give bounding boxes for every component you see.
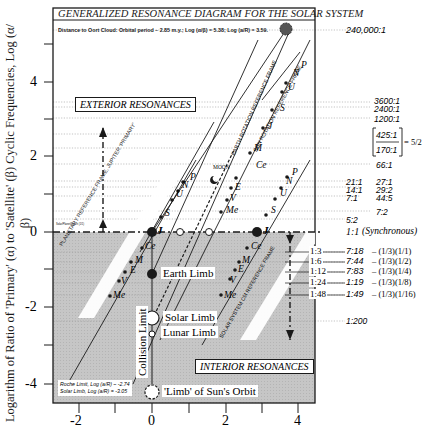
label-Ce-sun: Ce xyxy=(256,160,267,170)
label-S-sun: S xyxy=(280,103,285,113)
label-E-sun: E xyxy=(235,182,241,192)
interior-formula: – (1/3)(1/1) xyxy=(372,246,411,256)
label-E-left: E xyxy=(130,265,136,275)
ratio-425: 425:1 xyxy=(376,130,397,140)
label-N-left: N xyxy=(182,180,188,190)
interior-ratio: 1:3 xyxy=(309,246,323,256)
interior-ratio: 1:24 xyxy=(309,277,327,287)
label-P-cm: P xyxy=(292,167,298,177)
label-U-left: U xyxy=(176,189,183,199)
label-Me-cm: Me xyxy=(224,290,236,300)
label-Me-left: Me xyxy=(113,290,125,300)
label-P-sun: P xyxy=(301,60,307,70)
sun-orbit-limb-label: 'Limb' of Sun's Orbit xyxy=(162,385,258,397)
earth-limb-label: Earth Limb xyxy=(161,267,215,279)
label-Ce-left: Ce xyxy=(145,241,156,251)
label-N-sun: N xyxy=(293,68,299,78)
label-J-left: J xyxy=(157,224,163,236)
ratio-synch: 1:1 xyxy=(346,226,359,237)
limits-box: Roche Limit, Log (a/R) ~ -2.74 Solar Lim… xyxy=(58,380,132,396)
label-M-sun: M xyxy=(254,143,262,153)
moon-label: MOON xyxy=(213,164,230,170)
label-V-cm: V xyxy=(230,275,236,285)
collision-limit-label: Collision Limit xyxy=(136,306,148,378)
y-tick-0: 0 xyxy=(30,224,37,240)
earth-limb-marker xyxy=(147,269,157,279)
small-note: Solar/Planet/Synch (1/1) xyxy=(56,223,84,226)
x-tick-0: 0 xyxy=(148,413,155,429)
x-axis-ticks xyxy=(79,403,298,413)
solar-limit-text: Solar Limb, Log (a/R) = -3.05 xyxy=(60,388,130,395)
ratio-synch-note: (Synchronous) xyxy=(362,226,417,236)
y-axis-label: Logarithm of Ratio of 'Primary' (α) to '… xyxy=(3,23,33,423)
up-arrow-icon xyxy=(99,127,107,137)
interior-formula: – (1/3)(1/4) xyxy=(372,266,411,276)
label-Ce-cm: Ce xyxy=(251,241,262,251)
ratio-1-200: 1:200 xyxy=(346,316,367,326)
interior-formula: – (1/3)(1/2) xyxy=(372,256,411,266)
y-tick-2: 2 xyxy=(30,148,37,164)
page-title: GENERALIZED RESONANCE DIAGRAM FOR THE SO… xyxy=(58,8,363,19)
ratio-44-5: 44:5 xyxy=(376,193,393,203)
interior-value: 1:49 xyxy=(346,289,364,299)
ratio-1200: 1200:1 xyxy=(374,114,400,124)
interior-ratio: 1:12 xyxy=(309,266,327,276)
label-J-cm: J xyxy=(263,224,269,236)
exterior-resonances-box: EXTERIOR RESONANCES xyxy=(75,97,196,112)
label-E-cm: E xyxy=(238,264,244,274)
ratio-7-2: 7:2 xyxy=(376,207,388,217)
label-U-cm: U xyxy=(280,188,287,198)
y-axis-ticks xyxy=(44,44,53,384)
label-V-sun: V xyxy=(230,193,236,203)
x-tick-2: 2 xyxy=(222,413,229,429)
label-P-left: P xyxy=(190,172,196,182)
oort-cloud-marker xyxy=(280,23,292,35)
label-V-left: V xyxy=(121,276,127,286)
roche-limit-text: Roche Limit, Log (a/R) ~ -2.74 xyxy=(60,381,130,388)
y-tick-neg2: -2 xyxy=(25,299,37,315)
sun-orbit-limb-marker xyxy=(145,385,159,399)
y-tick-neg4: -4 xyxy=(25,376,37,392)
y-tick-4: 4 xyxy=(30,74,37,90)
interior-resonances-box: INTERIOR RESONANCES xyxy=(195,359,314,374)
ratio-7: 7:1 xyxy=(346,193,358,203)
ratio-240000: 240,000:1 xyxy=(346,25,386,35)
interior-ratio: 1:48 xyxy=(309,289,327,299)
label-S-left: S xyxy=(165,208,170,218)
ratio-5-2: 5:2 xyxy=(346,215,358,225)
lunar-limb-label: Lunar Limb xyxy=(161,326,218,338)
interior-value: 1:19 xyxy=(346,277,364,287)
interior-value: 7:44 xyxy=(346,256,364,266)
x-tick-4: 4 xyxy=(294,413,301,429)
interior-ratio: 1:6 xyxy=(309,256,323,266)
label-J-sun: J xyxy=(268,121,272,131)
interior-formula: – (1/3)(1/8) xyxy=(372,277,411,287)
solar-limb-label: Solar Limb xyxy=(163,311,217,323)
oort-note: Distance to Oort Cloud: Orbital period ~… xyxy=(58,27,268,33)
interior-value: 7:83 xyxy=(346,266,364,276)
ratio-170: 170:1 xyxy=(376,145,397,155)
ratio-66: 66:1 xyxy=(376,160,393,170)
moon-icon xyxy=(210,176,218,184)
label-N-cm: N xyxy=(286,176,292,186)
interior-value: 7:18 xyxy=(346,246,364,256)
label-M-left: M xyxy=(135,255,143,265)
x-tick-neg2: -2 xyxy=(70,413,82,429)
label-Me-sun: Me xyxy=(226,205,238,215)
ratio-eq52: = 5/2 xyxy=(404,137,422,147)
interior-formula: – (1/3)(1/16) xyxy=(372,289,416,299)
label-U-sun: U xyxy=(288,82,295,92)
label-S-cm: S xyxy=(271,205,276,215)
ratio-2400: 2400:1 xyxy=(374,104,400,114)
